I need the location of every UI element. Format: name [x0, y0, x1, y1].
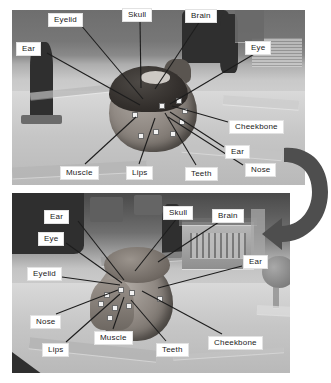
label-skull-bottom: Skull	[163, 206, 193, 220]
marker-chip	[104, 292, 110, 298]
wall-frame	[90, 197, 123, 222]
label-eye-top: Eye	[245, 41, 271, 55]
wall-frame-second	[134, 195, 162, 215]
marker-chip	[118, 287, 124, 293]
annotated-photo-figure: Eyelid Skull Brain Ear Eye Cheekbone Ear…	[0, 0, 331, 383]
brain-highlight	[141, 71, 170, 83]
label-brain-bottom: Brain	[212, 209, 244, 223]
label-teeth-top: Teeth	[185, 167, 218, 181]
label-teeth-bottom: Teeth	[156, 343, 189, 357]
marker-chip	[98, 301, 104, 307]
marker-chip	[157, 296, 163, 302]
marker-chip	[170, 131, 176, 137]
curved-arrow-shape	[262, 148, 328, 250]
label-muscle-top: Muscle	[60, 166, 99, 180]
marker-chip	[138, 133, 144, 139]
marker-chip	[132, 112, 138, 118]
label-lips-top: Lips	[126, 166, 153, 180]
label-ear-right-bottom: Ear	[243, 255, 268, 269]
marker-chip	[107, 315, 113, 321]
label-eyelid-bottom: Eyelid	[27, 267, 62, 281]
marker-chip	[182, 108, 188, 114]
model-building-windows	[190, 233, 246, 258]
label-nose-bottom: Nose	[30, 315, 61, 329]
marker-chip	[176, 98, 182, 104]
curved-arrow-icon	[262, 142, 331, 250]
label-muscle-bottom: Muscle	[94, 331, 133, 345]
marker-chip	[159, 103, 165, 109]
label-brain-top: Brain	[185, 9, 217, 23]
label-skull-top: Skull	[122, 8, 152, 22]
marker-chip	[126, 303, 132, 309]
label-eye-bottom: Eye	[38, 232, 64, 246]
brain-model	[104, 247, 171, 283]
marker-chip	[153, 129, 159, 135]
marker-chip	[112, 305, 118, 311]
marker-chip	[179, 119, 185, 125]
marker-chip	[129, 290, 135, 296]
label-ear-left-top: Ear	[16, 42, 41, 56]
label-cheekbone-bottom: Cheekbone	[208, 336, 263, 350]
label-cheekbone-top: Cheekbone	[229, 120, 284, 134]
label-ear-right-top: Ear	[225, 145, 250, 159]
wall-panel-dark	[235, 10, 264, 42]
background-figure-left-base	[21, 115, 62, 124]
label-ear-left-bottom: Ear	[44, 210, 69, 224]
label-lips-bottom: Lips	[42, 343, 69, 357]
label-eyelid-top: Eyelid	[48, 13, 83, 27]
